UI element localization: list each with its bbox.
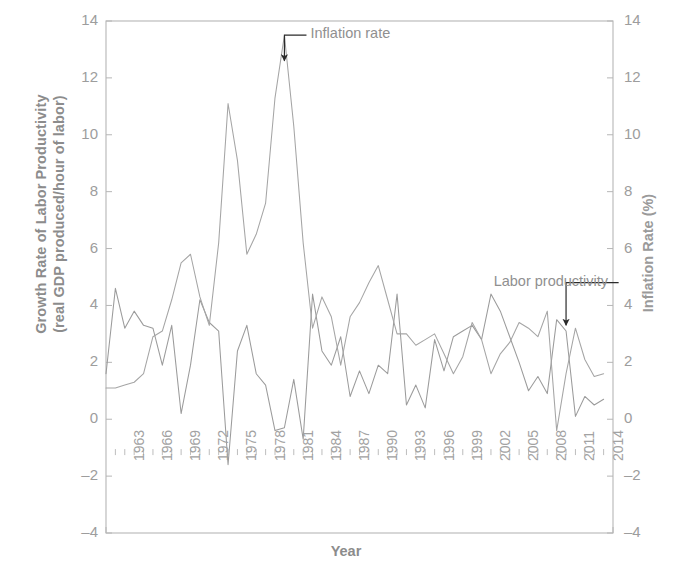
x-axis-tick-label: 1981 xyxy=(300,430,316,461)
y-axis-left-tick-label: –2 xyxy=(58,466,98,483)
x-axis-tick-label: 1963 xyxy=(131,430,147,461)
x-axis-tick-label: 1978 xyxy=(272,430,288,461)
x-axis-tick-label: 1975 xyxy=(243,430,259,461)
x-axis-tick-label: 1990 xyxy=(384,430,400,461)
y-axis-left-tick-label: 2 xyxy=(58,352,98,369)
x-axis-tick-label: 2014 xyxy=(610,430,626,461)
y-axis-left-tick-label: –4 xyxy=(58,523,98,540)
y-axis-left-tick-label: 12 xyxy=(58,68,98,85)
y-axis-left-tick-label: 14 xyxy=(58,11,98,28)
y-axis-left-tick-label: 10 xyxy=(58,125,98,142)
x-axis-tick-label: 1984 xyxy=(328,430,344,461)
y-axis-left-tick-label: 4 xyxy=(58,295,98,312)
annotation-labor-productivity: Labor productivity xyxy=(494,273,608,289)
y-axis-right-tick-label: 4 xyxy=(624,295,664,312)
plot-overlay: –4–4–2–200224466881010121214141963196619… xyxy=(0,0,692,573)
chart-figure: Growth Rate of Labor Productivity (real … xyxy=(0,0,692,573)
x-axis-tick-label: 1987 xyxy=(356,430,372,461)
x-axis-tick-label: 2005 xyxy=(525,430,541,461)
y-axis-right-tick-label: 10 xyxy=(624,125,664,142)
y-axis-right-tick-label: –2 xyxy=(624,466,664,483)
x-axis-tick-label: 1966 xyxy=(159,430,175,461)
x-axis-tick-label: 2002 xyxy=(497,430,513,461)
y-axis-right-tick-label: 6 xyxy=(624,239,664,256)
y-axis-right-tick-label: 2 xyxy=(624,352,664,369)
x-axis-tick-label: 2008 xyxy=(553,430,569,461)
y-axis-right-tick-label: –4 xyxy=(624,523,664,540)
y-axis-right-tick-label: 0 xyxy=(624,409,664,426)
x-axis-tick-label: 1996 xyxy=(441,430,457,461)
y-axis-left-tick-label: 6 xyxy=(58,239,98,256)
x-axis-tick-label: 1969 xyxy=(187,430,203,461)
x-axis-tick-label: 1972 xyxy=(215,430,231,461)
annotation-inflation-rate: Inflation rate xyxy=(310,25,390,41)
y-axis-left-tick-label: 8 xyxy=(58,182,98,199)
x-axis-tick-label: 1999 xyxy=(469,430,485,461)
y-axis-right-tick-label: 14 xyxy=(624,11,664,28)
y-axis-left-tick-label: 0 xyxy=(58,409,98,426)
y-axis-right-tick-label: 12 xyxy=(624,68,664,85)
x-axis-tick-label: 1993 xyxy=(412,430,428,461)
x-axis-tick-label: 2011 xyxy=(581,431,597,461)
y-axis-right-tick-label: 8 xyxy=(624,182,664,199)
